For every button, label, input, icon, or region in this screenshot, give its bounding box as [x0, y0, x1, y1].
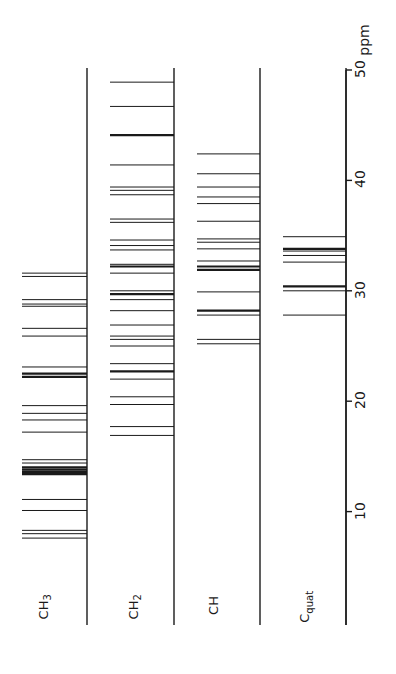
axis-tick-label: 50: [352, 60, 368, 78]
axis-tick-label: 10: [352, 502, 368, 520]
axis-unit-label: ppm: [356, 24, 372, 55]
axis-tick-label: 20: [352, 391, 368, 409]
axis-tick-label: 30: [352, 281, 368, 299]
axis-tick-label: 40: [352, 170, 368, 188]
series-label-cquat: Cquat: [297, 591, 315, 623]
series-label-ch: CH: [206, 596, 221, 615]
series-label-ch2: CH2: [126, 594, 144, 619]
stick-spectrum-plot: [0, 0, 396, 674]
series-label-ch3: CH3: [36, 594, 54, 619]
